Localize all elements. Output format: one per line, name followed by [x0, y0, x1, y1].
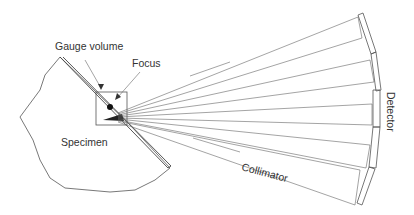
collimator-label: Collimator: [240, 160, 289, 184]
gauge-volume-label: Gauge volume: [55, 40, 123, 52]
specimen-label: Specimen: [61, 136, 108, 148]
diffracted-beam-wedge: [103, 114, 124, 121]
detector: [357, 13, 381, 205]
focus-point: [107, 104, 113, 110]
detector-label: Detector: [385, 92, 397, 132]
focus-label: Focus: [132, 57, 161, 69]
detector-segment-2: [371, 52, 381, 91]
collimator-blade-ends: [355, 17, 374, 205]
collimator-fan: [118, 17, 374, 205]
diffraction-diagram: Gauge volume Focus Specimen Collimator D…: [0, 0, 414, 215]
focus-arrow: [115, 72, 140, 100]
detector-segment-3: [373, 90, 380, 127]
detector-segment-1: [358, 13, 376, 54]
detector-segment-4: [369, 127, 380, 168]
